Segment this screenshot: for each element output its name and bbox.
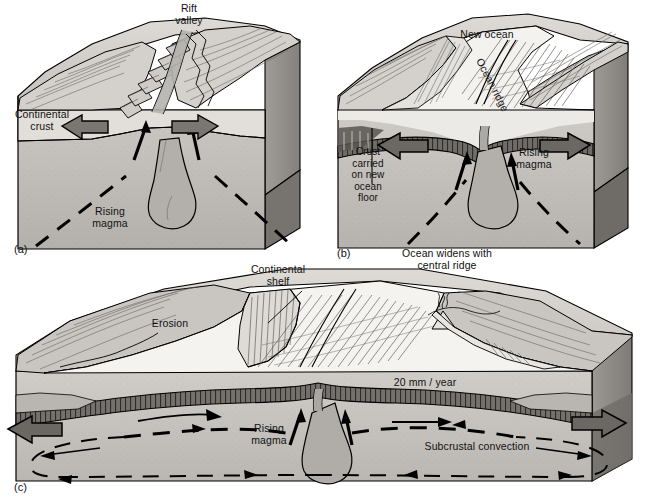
panel-b-new-ocean: New ocean Ocean ridge Crust carried on n… bbox=[322, 0, 645, 265]
label-new-ocean: New ocean bbox=[442, 28, 532, 40]
panel-label-a: (a) bbox=[14, 243, 27, 255]
label-rising-magma-b: Rising magma bbox=[506, 146, 562, 170]
panel-label-b: (b) bbox=[337, 247, 350, 259]
panel-c-drawing bbox=[0, 263, 645, 500]
label-subcrustal-convection: Subcrustal convection bbox=[402, 440, 552, 452]
label-continental-crust: Continental crust bbox=[4, 108, 80, 132]
label-rift-valley: Rift valley bbox=[154, 2, 224, 26]
label-rising-magma-a: Rising magma bbox=[82, 205, 138, 229]
label-erosion: Erosion bbox=[140, 317, 200, 329]
label-spreading-rate: 20 mm / year bbox=[385, 376, 465, 388]
label-rising-magma-c: Rising magma bbox=[241, 422, 297, 446]
seafloor-spreading-figure: Rift valley Continental crust Rising mag… bbox=[0, 0, 645, 500]
panel-a-continental-rifting: Rift valley Continental crust Rising mag… bbox=[0, 0, 322, 265]
label-continental-shelf: Continental shelf bbox=[237, 263, 319, 287]
panel-a-drawing bbox=[0, 0, 322, 265]
panel-label-c: (c) bbox=[14, 481, 27, 493]
panel-c-mature-ocean: Continental shelf Erosion 20 mm / year R… bbox=[0, 263, 645, 500]
label-crust-carried: Crust carried on new ocean floor bbox=[339, 146, 397, 204]
